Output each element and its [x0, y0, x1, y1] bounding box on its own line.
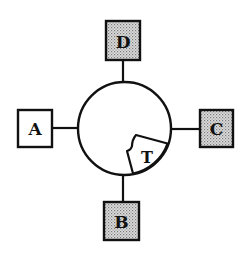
node-d: D [106, 21, 140, 60]
node-c: C [200, 110, 233, 147]
node-label-a: A [27, 119, 42, 139]
node-label-c: C [210, 119, 224, 139]
diagram-canvas: T D A C B [0, 0, 245, 265]
wedge-label-t: T [141, 148, 153, 167]
node-b: B [104, 202, 139, 240]
node-label-b: B [114, 212, 128, 232]
node-label-d: D [116, 32, 131, 52]
node-a: A [18, 110, 52, 147]
